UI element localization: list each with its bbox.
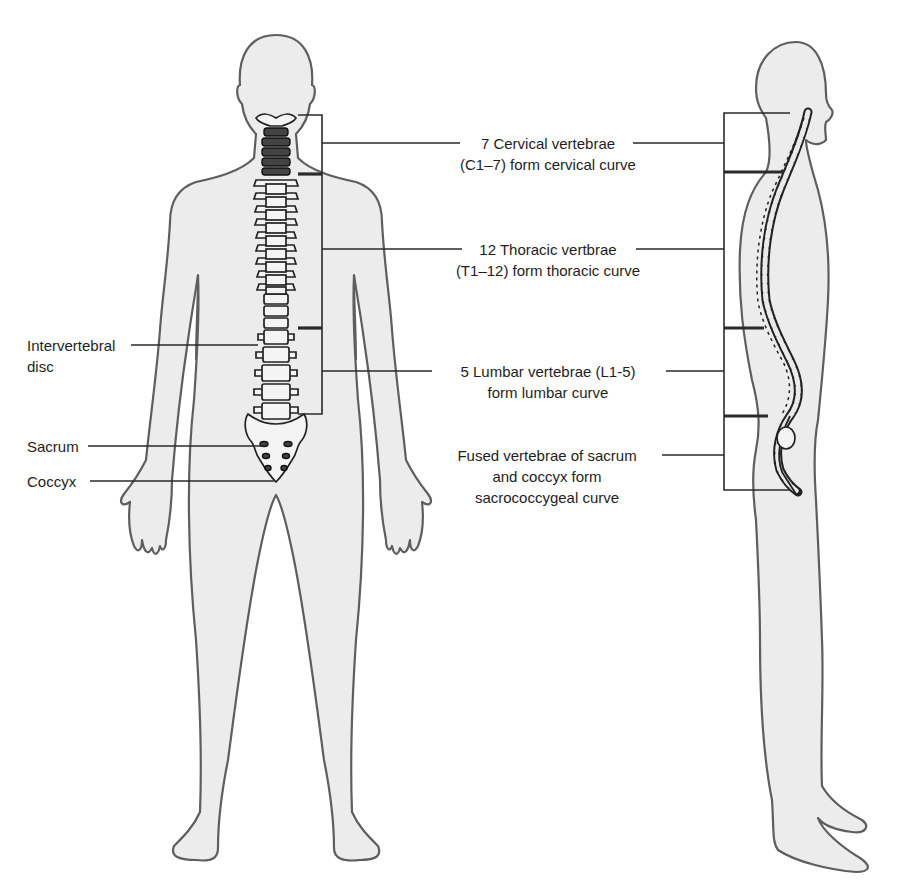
- label-line: Intervertebral: [27, 335, 115, 356]
- label-line: (T1–12) form thoracic curve: [438, 260, 658, 281]
- label-intervertebral-disc: Intervertebral disc: [27, 335, 115, 377]
- lateral-body-figure: [740, 42, 868, 872]
- label-line: 12 Thoracic vertbrae: [438, 239, 658, 260]
- label-line: and coccyx form: [434, 466, 660, 487]
- label-sacrum: Sacrum: [27, 436, 79, 457]
- label-thoracic: 12 Thoracic vertbrae (T1–12) form thorac…: [438, 239, 658, 281]
- label-cervical: 7 Cervical vertebrae (C1–7) form cervica…: [438, 133, 658, 175]
- label-line: 5 Lumbar vertebrae (L1-5): [432, 361, 664, 382]
- label-line: (C1–7) form cervical curve: [438, 154, 658, 175]
- label-line: Fused vertebrae of sacrum: [434, 445, 660, 466]
- label-line: Coccyx: [27, 471, 76, 492]
- label-coccyx: Coccyx: [27, 471, 76, 492]
- label-lumbar: 5 Lumbar vertebrae (L1-5) form lumbar cu…: [432, 361, 664, 403]
- label-line: disc: [27, 356, 115, 377]
- label-line: sacrococcygeal curve: [434, 487, 660, 508]
- label-line: 7 Cervical vertebrae: [438, 133, 658, 154]
- label-line: form lumbar curve: [432, 382, 664, 403]
- label-sacrococcygeal: Fused vertebrae of sacrum and coccyx for…: [434, 445, 660, 508]
- label-line: Sacrum: [27, 436, 79, 457]
